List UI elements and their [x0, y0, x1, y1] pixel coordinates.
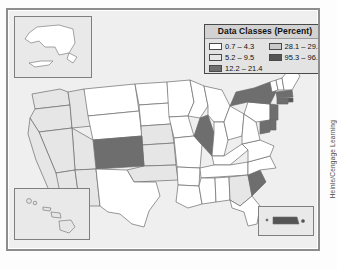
map-frame: Data Classes (Percent) 0.7 – 4.3 5.2 – 9…	[6, 8, 320, 251]
alaska-svg	[15, 17, 91, 77]
region-puerto-rico	[273, 217, 299, 224]
legend-column-left: 0.7 – 4.3 5.2 – 9.5 12.2 – 21.4	[209, 41, 263, 73]
inset-box-hawaii	[14, 188, 90, 240]
legend-entry-label: 0.7 – 4.3	[225, 42, 254, 51]
state-maryland	[260, 120, 270, 134]
inset-box-alaska	[14, 16, 92, 78]
state-rhode-island	[288, 98, 293, 102]
map-legend: Data Classes (Percent) 0.7 – 4.3 5.2 – 9…	[204, 24, 318, 74]
puerto-rico-svg	[259, 207, 313, 235]
legend-swatch-icon	[269, 54, 282, 61]
state-north-dakota	[135, 82, 169, 105]
state-massachusetts	[276, 90, 293, 98]
state-arkansas	[177, 167, 200, 186]
legend-swatch-icon	[209, 43, 222, 50]
hawaii-maui	[51, 212, 61, 218]
legend-entry: 12.2 – 21.4	[209, 63, 263, 73]
region-alaska	[25, 25, 75, 55]
legend-body: 0.7 – 4.3 5.2 – 9.5 12.2 – 21.4	[205, 39, 318, 73]
hawaii-molokai	[43, 207, 51, 211]
hawaii-big-island	[59, 220, 75, 233]
legend-entry-label: 95.3 – 96.3	[285, 53, 318, 62]
legend-swatch-icon	[269, 43, 282, 50]
legend-entry-label: 12.2 – 21.4	[225, 64, 263, 73]
pr-vieques	[301, 219, 304, 222]
hawaii-oahu	[33, 201, 37, 205]
state-wyoming	[88, 111, 142, 140]
legend-column-right: 28.1 – 29.0 95.3 – 96.3	[269, 41, 318, 73]
pr-mona	[266, 219, 268, 221]
state-colorado	[93, 136, 144, 169]
legend-swatch-icon	[209, 65, 222, 72]
hawaii-svg	[15, 189, 89, 239]
legend-swatch-icon	[209, 54, 222, 61]
state-mississippi	[199, 178, 216, 204]
legend-entry: 28.1 – 29.0	[269, 41, 318, 51]
state-louisiana	[176, 185, 202, 208]
state-south-dakota	[139, 103, 171, 126]
state-alabama	[215, 177, 230, 202]
map-canvas: Data Classes (Percent) 0.7 – 4.3 5.2 – 9…	[8, 10, 318, 249]
legend-entry: 5.2 – 9.5	[209, 52, 263, 62]
alaska-panhandle	[67, 53, 77, 63]
legend-entry: 95.3 – 96.3	[269, 52, 318, 62]
legend-title: Data Classes (Percent)	[205, 25, 318, 39]
state-new-york	[230, 82, 276, 106]
state-nebraska	[141, 124, 174, 145]
map-figure: Data Classes (Percent) 0.7 – 4.3 5.2 – 9…	[0, 0, 337, 269]
legend-entry-label: 5.2 – 9.5	[225, 53, 254, 62]
legend-entry: 0.7 – 4.3	[209, 41, 263, 51]
inset-box-puerto-rico	[258, 206, 314, 236]
state-kansas	[142, 143, 176, 166]
state-delaware	[270, 120, 276, 130]
state-new-jersey	[270, 104, 278, 120]
publisher-credit: Heinle/Cengage Learning	[329, 120, 336, 198]
state-connecticut	[277, 98, 288, 104]
hawaii-kauai	[27, 199, 32, 204]
legend-entry-label: 28.1 – 29.0	[285, 42, 318, 51]
state-montana	[84, 84, 139, 116]
state-oklahoma	[127, 165, 178, 182]
alaska-aleutians	[29, 61, 53, 67]
